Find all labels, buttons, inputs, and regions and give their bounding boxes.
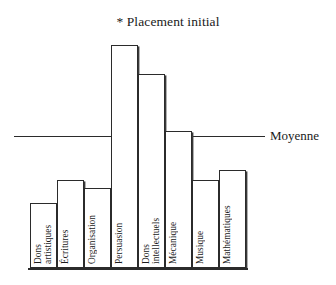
bar-6: [192, 180, 219, 268]
bar-3: [111, 45, 138, 268]
bar-1: [57, 180, 84, 268]
bar-7: [219, 170, 246, 268]
bar-4: [138, 74, 165, 268]
mean-line-label: Moyenne: [270, 129, 319, 142]
chart-baseline: [28, 268, 248, 270]
chart-figure: * Placement initial Dons artistiquesÉcri…: [0, 0, 336, 285]
bar-5: [165, 131, 192, 268]
bar-2: [84, 188, 111, 268]
bar-0: [30, 203, 57, 268]
